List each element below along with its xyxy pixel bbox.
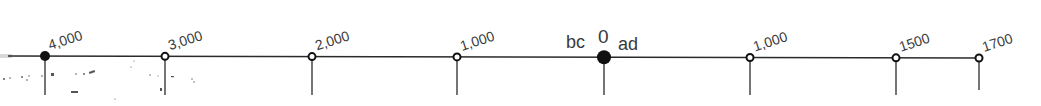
timeline-node xyxy=(162,53,169,60)
timeline-mark: 1,000 xyxy=(747,28,790,95)
timeline-mark-label: 1700 xyxy=(980,30,1015,55)
timeline-mark-label: 4,000 xyxy=(46,27,84,53)
timeline-diagram: 4,0003,0002,0001,00001,00015001700 bc ad xyxy=(0,0,1041,106)
timeline-marks: 4,0003,0002,0001,00001,00015001700 xyxy=(40,26,1015,95)
timeline-mark: 1500 xyxy=(893,30,932,95)
timeline-mark-label: 2,000 xyxy=(313,27,351,53)
timeline-node xyxy=(40,51,50,61)
era-label-bc: bc xyxy=(566,32,585,52)
timeline-mark: 1,000 xyxy=(454,28,497,95)
timeline-mark-label: 1,000 xyxy=(458,28,496,54)
era-label-ad: ad xyxy=(618,34,638,54)
timeline-mark: 1700 xyxy=(976,30,1015,90)
timeline-node xyxy=(597,50,611,64)
timeline-node xyxy=(976,54,983,61)
timeline-node xyxy=(893,54,900,61)
timeline-baseline xyxy=(8,56,981,58)
timeline-mark: 3,000 xyxy=(162,27,205,95)
timeline-mark-label: 1,000 xyxy=(751,28,789,54)
timeline-mark: 4,000 xyxy=(40,27,84,95)
timeline-mark-label: 1500 xyxy=(897,30,932,55)
timeline-node xyxy=(454,53,461,60)
timeline-mark: 0 xyxy=(597,26,611,95)
timeline-node xyxy=(747,54,754,61)
timeline-mark: 2,000 xyxy=(309,27,352,95)
scan-noise xyxy=(3,60,195,99)
timeline-node xyxy=(309,53,316,60)
timeline-mark-label: 3,000 xyxy=(166,27,204,53)
timeline-mark-label: 0 xyxy=(598,26,609,47)
